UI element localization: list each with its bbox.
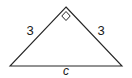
hypotenuse-label: c: [59, 65, 73, 77]
right-angle-square-icon: [62, 12, 70, 21]
leg-left-label: 3: [23, 24, 37, 37]
right-triangle-figure: 3 3 c: [0, 0, 132, 78]
leg-right-label: 3: [94, 24, 108, 37]
